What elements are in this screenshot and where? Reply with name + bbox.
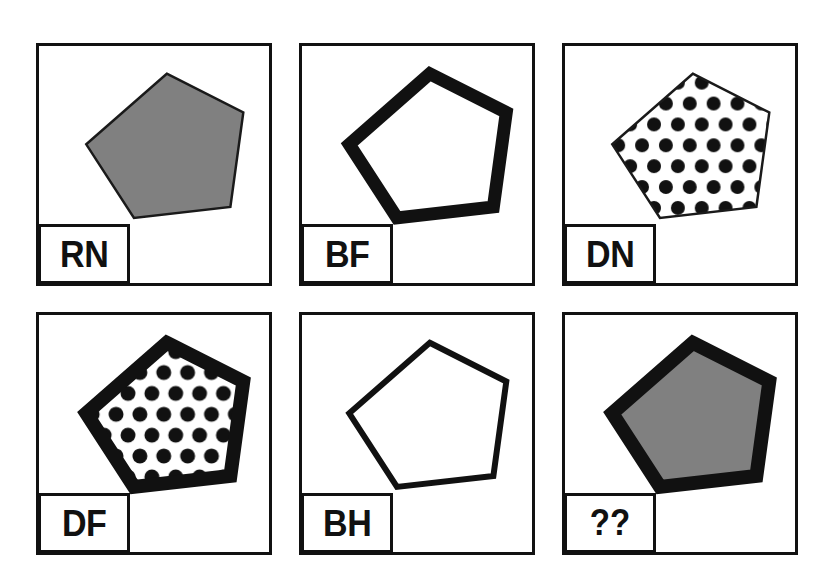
- panel-label-box-rn: RN: [38, 224, 130, 284]
- stimulus-panel-dn[interactable]: DN: [562, 43, 798, 286]
- panel-label-query: ??: [590, 505, 630, 541]
- panel-label-bh: BH: [323, 505, 371, 542]
- stimulus-panel-query[interactable]: ??: [562, 312, 798, 555]
- stimulus-panel-bh[interactable]: BH: [299, 312, 535, 555]
- panel-label-df: DF: [62, 505, 106, 542]
- panel-label-box-query: ??: [564, 493, 656, 553]
- panel-label-box-dn: DN: [564, 224, 656, 284]
- panel-label-box-bh: BH: [301, 493, 393, 553]
- stimulus-panel-df[interactable]: DF: [36, 312, 272, 555]
- panel-label-box-df: DF: [38, 493, 130, 553]
- panel-label-dn: DN: [586, 236, 634, 273]
- panel-label-bf: BF: [325, 236, 369, 273]
- panel-label-rn: RN: [60, 236, 108, 273]
- stimulus-grid: RN BF DN: [0, 0, 839, 586]
- panel-label-box-bf: BF: [301, 224, 393, 284]
- stimulus-panel-rn[interactable]: RN: [36, 43, 272, 286]
- stimulus-panel-bf[interactable]: BF: [299, 43, 535, 286]
